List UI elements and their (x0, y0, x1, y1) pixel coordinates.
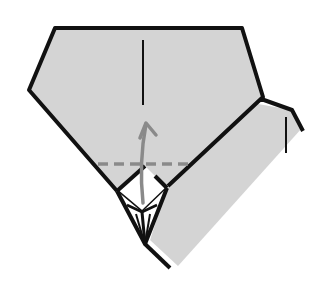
origami-diagram (0, 0, 324, 298)
